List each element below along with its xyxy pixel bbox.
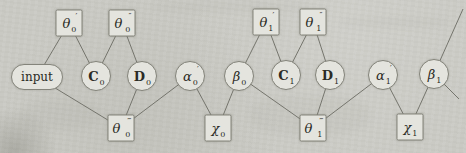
label-base: D [134,69,145,84]
label-sub: 0 [100,79,105,87]
label-sub: 0 [125,131,130,139]
label-base: χ [212,121,220,136]
label-base: χ [404,120,412,135]
node-input: input [11,64,63,90]
label-sub: 0 [71,26,76,34]
node-theta1-double-prime: θ″1 [300,9,327,36]
label-sub: 0 [125,26,130,34]
label-base: α [183,69,192,84]
node-chi0: χ0 [205,115,232,142]
node-D1: D1 [315,60,345,90]
label-sub: 0 [220,131,225,139]
label-prime: ″ [128,12,130,20]
label-prime: ′ [273,11,274,19]
label-base: θ [305,121,313,136]
label-prime: ‴ [127,117,130,125]
label-prime: ′ [76,12,77,20]
label-sub: 1 [334,78,339,86]
node-beta0: β0 [224,61,254,91]
node-C0: C0 [81,61,111,91]
label-sub: 0 [241,79,246,87]
label-base: θ [113,121,121,136]
label-base: θ [63,16,71,31]
label-sub: 1 [317,131,322,139]
node-theta0-double-prime: θ″0 [109,10,136,37]
node-theta1-triple-prime: θ‴1 [300,115,327,142]
label-sub: 1 [290,78,295,86]
label-prime: ′ [390,64,391,72]
label-sub: 1 [316,25,321,33]
label-sub: 1 [386,78,391,86]
node-theta0-prime: θ′0 [56,10,83,37]
factor-graph-figure: θ′0 θ″0 θ′1 θ″1 input C0 D0 α′0 β0 C1 D1… [0,0,466,153]
label-base: θ [115,16,123,31]
node-alpha1-prime: α′1 [368,60,398,90]
label-base: α [376,68,385,83]
label-base: C [88,69,98,84]
label-base: input [21,71,53,83]
label-sub: 1 [268,25,273,33]
label-prime: ′ [197,65,198,73]
node-D0: D0 [127,61,157,91]
label-base: β [233,69,241,84]
node-beta1: β1 [419,59,449,89]
label-base: θ [306,15,314,30]
node-chi1: χ1 [397,114,424,141]
label-base: C [278,68,288,83]
node-alpha0-prime: α′0 [175,61,205,91]
label-base: D [322,68,333,83]
label-prime: ″ [319,11,321,19]
label-sub: 0 [146,79,151,87]
node-C1: C1 [271,60,301,90]
label-prime: ‴ [319,117,322,125]
label-base: β [428,67,436,82]
label-sub: 1 [412,130,417,138]
node-theta0-triple-prime: θ‴0 [108,115,135,142]
label-sub: 0 [193,79,198,87]
label-sub: 1 [436,77,441,85]
node-theta1-prime: θ′1 [253,9,280,36]
label-base: θ [260,15,268,30]
